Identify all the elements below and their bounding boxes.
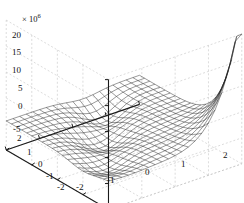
y-axis-tick-label: 1 [27,148,32,157]
z-axis-tick-label: 5 [18,84,23,93]
y-axis-tick-label: -1 [46,172,54,181]
x-axis-tick [39,135,40,139]
x-axis-tick-label: 0 [145,168,150,177]
mesh-line-v [27,87,160,133]
mesh-line-v [98,60,231,177]
x-axis-tick-label: -2 [76,183,84,192]
mesh-line-v [32,90,165,136]
z-axis-tick-label: 0 [18,102,23,111]
x-axis-tick [5,147,6,151]
z-axis-tick-label: 20 [12,31,21,40]
mesh-line-u [120,82,222,118]
x-axis-tick-label: 1 [181,160,186,169]
mesh-line-u [133,42,235,109]
grid-line-wall-left [108,60,241,106]
plot-canvas [0,0,244,203]
x-axis-tick-label: 2 [223,151,228,160]
grid-walls [6,20,242,203]
x-axis-line [6,104,139,150]
y-axis-tick-label: -2 [57,183,65,192]
y-axis-tick-label: 0 [38,160,43,169]
mesh-line-v [37,93,170,139]
mesh-line-u [140,34,242,105]
mesh-line-v [6,75,139,121]
figure-3d-surface-plot: × 106 20151050-5210-1-2-2-1012 [0,0,244,203]
z-axis-tick-label: 10 [12,66,21,75]
z-axis-tick-label: 15 [12,48,21,57]
grid-line-floor [73,127,175,187]
x-axis-tick [72,124,73,128]
mesh-line-v [103,36,236,179]
x-axis-tick-label: -1 [107,176,115,185]
x-axis-tick [105,112,106,116]
y-axis-tick-label: 2 [17,134,22,143]
x-axis-tick [139,101,140,105]
